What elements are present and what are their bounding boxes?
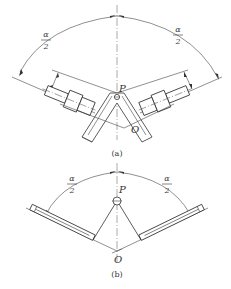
caption-a: (a) bbox=[111, 149, 122, 158]
technical-diagram: P O α 2 α 2 (a) bbox=[0, 0, 231, 289]
angle-arc-a bbox=[20, 16, 218, 78]
numerator: α bbox=[69, 174, 75, 183]
arrow-icon bbox=[184, 72, 187, 77]
link-left-b bbox=[93, 204, 115, 240]
right-arm-a bbox=[135, 80, 195, 118]
label-o-b: O bbox=[114, 254, 122, 265]
ref-line-left-inner bbox=[52, 70, 117, 93]
right-bar-b bbox=[139, 204, 205, 240]
angle-label-left-a: α 2 bbox=[41, 30, 51, 51]
caption-b: (b) bbox=[111, 270, 122, 279]
arrow-icon bbox=[189, 84, 192, 89]
numerator: α bbox=[43, 30, 49, 39]
numerator: α bbox=[164, 174, 170, 183]
angle-label-right-b: α 2 bbox=[162, 174, 172, 195]
label-p-a: P bbox=[118, 83, 126, 94]
left-bar-b bbox=[30, 204, 96, 240]
denominator: 2 bbox=[163, 186, 169, 195]
denominator: 2 bbox=[68, 186, 74, 195]
label-p-b: P bbox=[118, 184, 126, 195]
numerator: α bbox=[175, 25, 181, 34]
left-arm-a bbox=[39, 80, 99, 118]
v-jaw-a bbox=[82, 93, 152, 142]
arrow-icon bbox=[19, 69, 23, 76]
label-o-a: O bbox=[131, 124, 139, 135]
link-right-b bbox=[119, 204, 141, 240]
denominator: 2 bbox=[174, 37, 180, 46]
figure-b: P O α 2 α 2 (b) bbox=[26, 163, 208, 279]
figure-a: P O α 2 α 2 (a) bbox=[12, 5, 222, 158]
denominator: 2 bbox=[42, 42, 48, 51]
